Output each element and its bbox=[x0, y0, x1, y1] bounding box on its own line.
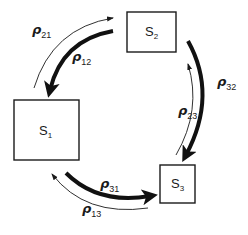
label-rho-31: ρ31 bbox=[100, 176, 119, 194]
state-s3: S3 bbox=[160, 165, 195, 203]
state-s2: S2 bbox=[127, 12, 176, 52]
label-rho-21: ρ21 bbox=[32, 22, 51, 40]
label-rho-32: ρ32 bbox=[217, 74, 236, 92]
arrow-rho-32 bbox=[186, 41, 203, 155]
label-rho-23: ρ23 bbox=[178, 103, 197, 121]
state-s1: S1 bbox=[14, 100, 79, 160]
label-rho-12: ρ12 bbox=[72, 49, 91, 67]
state-diagram: S1 S2 S3 ρ21 ρ12 ρ32 ρ23 ρ31 ρ13 bbox=[0, 0, 248, 235]
